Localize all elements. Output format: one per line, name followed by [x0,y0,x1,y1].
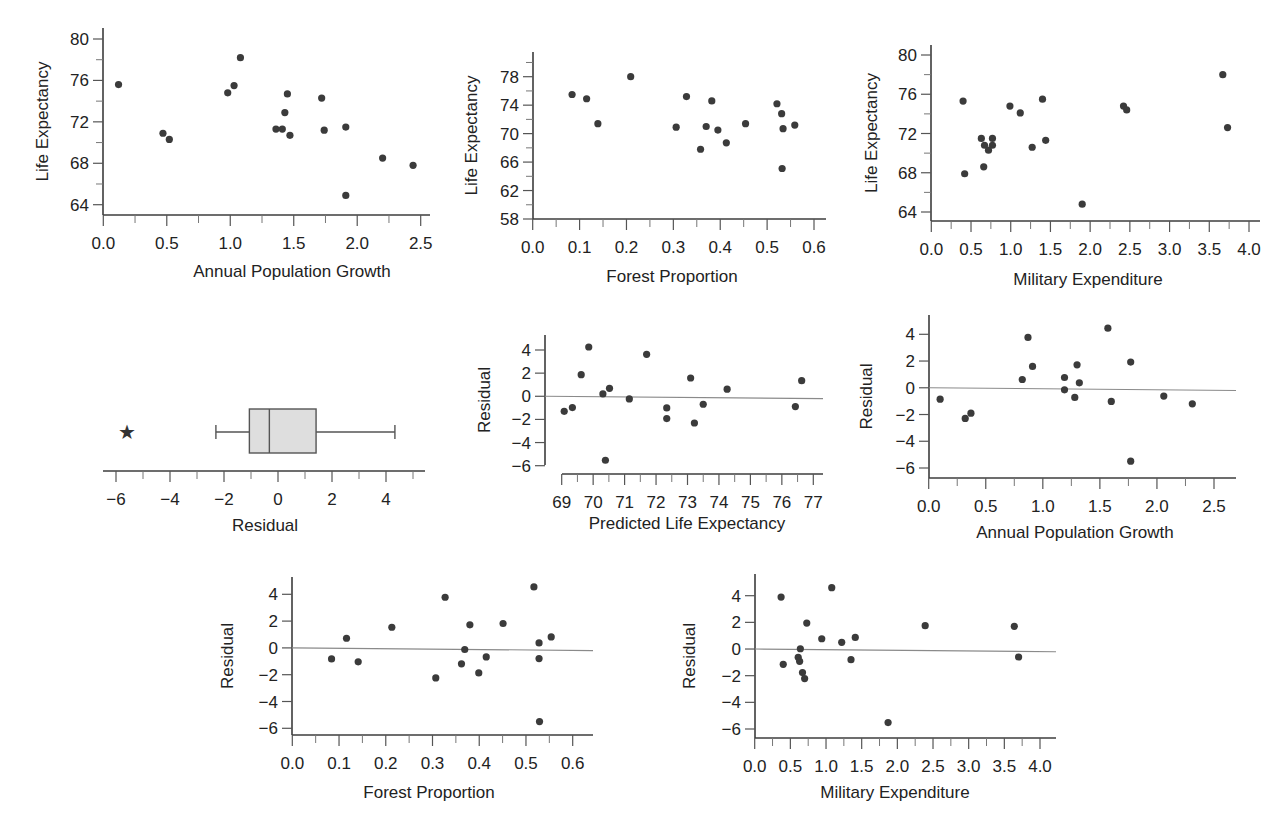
y-tick-label: 74 [500,96,519,115]
y-tick-label: 72 [898,125,917,144]
y-tick-label: 0 [906,379,915,398]
data-point [272,125,279,132]
data-point [803,619,810,626]
data-point [626,395,633,402]
data-point [432,674,439,681]
x-tick-label: 0.5 [779,757,803,776]
data-point [1019,376,1026,383]
data-point [536,718,543,725]
zero-reference-line [292,648,593,651]
data-point [1071,394,1078,401]
x-axis-label: Military Expenditure [1013,270,1162,289]
data-point [342,192,349,199]
x-tick-label: 0.4 [708,238,732,257]
data-point [627,73,634,80]
y-tick-label: 2 [522,364,531,383]
x-tick-label: 3.5 [993,757,1017,776]
x-tick-label: 75 [741,493,760,512]
x-axis-label: Predicted Life Expectancy [589,514,786,533]
data-point [937,396,944,403]
x-tick-label: 4.0 [1028,757,1052,776]
data-point [281,109,288,116]
data-point [959,98,966,105]
data-point [1024,334,1031,341]
y-axis-label: Life Expectancy [862,72,881,193]
y-tick-label: 64 [898,203,917,222]
data-point [1015,653,1022,660]
data-point [569,404,576,411]
y-tick-label: −4 [896,432,915,451]
y-tick-label: 4 [269,585,278,604]
x-tick-label: 71 [615,493,634,512]
data-point [780,661,787,668]
data-point [568,91,575,98]
y-tick-label: 4 [732,587,741,606]
data-point [1127,359,1134,366]
data-point [561,408,568,415]
x-tick-label: 0.4 [467,754,491,773]
x-tick-label: 76 [772,493,791,512]
x-axis-label: Forest Proportion [363,783,494,802]
y-axis-label: Residual [680,623,699,689]
y-tick-label: 76 [70,71,89,90]
x-tick-label: 0 [273,490,282,509]
x-tick-label: 2.5 [409,234,433,253]
data-point [224,89,231,96]
data-point [461,646,468,653]
data-point [578,371,585,378]
panel-residual-vs-predicted: 697071727374757677−6−4−2024Predicted Lif… [475,335,823,533]
panel-residual-boxplot: −6−4−2024★Residual [103,409,425,535]
x-axis-label: Forest Proportion [606,267,737,286]
x-tick-label: 0.0 [917,497,941,516]
x-tick-label: 0.6 [561,754,585,773]
data-point [1076,379,1083,386]
zero-reference-line [929,388,1236,391]
x-tick-label: 0.0 [91,234,115,253]
x-tick-label: 2.5 [1202,497,1226,516]
y-tick-label: 80 [70,30,89,49]
data-point [286,132,293,139]
data-point [989,135,996,142]
y-tick-label: 58 [500,210,519,229]
y-tick-label: 0 [522,387,531,406]
x-tick-label: 1.5 [850,757,874,776]
data-point [791,121,798,128]
x-tick-label: 0.1 [568,238,592,257]
data-point [1079,201,1086,208]
data-point [602,457,609,464]
data-point [1042,137,1049,144]
panel-residual-vs-military: 0.00.51.01.52.02.53.03.54.0−6−4−2024Mili… [680,574,1056,802]
y-tick-label: −4 [259,693,278,712]
panel-residual-vs-forest: 0.00.10.20.30.40.50.6−6−4−2024Forest Pro… [218,577,593,802]
x-tick-label: 2 [327,490,336,509]
data-point [1073,361,1080,368]
data-point [663,415,670,422]
data-point [328,655,335,662]
data-point [683,93,690,100]
data-point [599,390,606,397]
y-tick-label: −6 [722,720,741,739]
y-tick-label: 2 [906,352,915,371]
x-tick-label: 1.0 [814,757,838,776]
x-tick-label: 0.5 [755,238,779,257]
x-tick-label: 4.0 [1237,240,1261,259]
x-tick-label: 3.0 [957,757,981,776]
data-point [1039,96,1046,103]
data-point [723,139,730,146]
x-tick-label: 0.0 [521,238,545,257]
x-axis-label: Annual Population Growth [193,262,391,281]
data-point [1061,374,1068,381]
y-tick-label: 4 [522,341,531,360]
y-tick-label: 0 [269,639,278,658]
data-point [355,658,362,665]
data-point [884,719,891,726]
y-tick-label: −2 [896,406,915,425]
x-tick-label: 0.1 [327,754,351,773]
data-point [779,125,786,132]
data-point [1127,458,1134,465]
x-tick-label: 0.5 [959,240,983,259]
data-point [458,660,465,667]
data-point [703,123,710,130]
y-tick-label: 2 [732,613,741,632]
data-point [967,410,974,417]
